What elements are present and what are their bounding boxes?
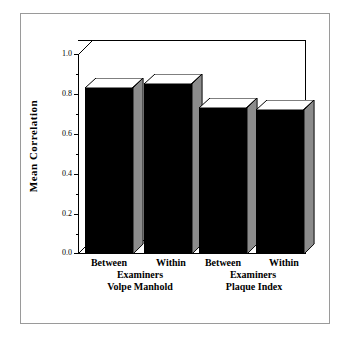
y-tick-minor-0.3 [76,194,79,195]
y-tick-0.0 [74,253,79,254]
bar-volpe-between-examiners [85,78,133,254]
y-tick-minor-0.9 [76,74,79,75]
y-tick-1.0 [74,54,79,55]
bar-front-face [85,88,133,254]
bar-front-face [144,84,192,254]
bar-front-face [256,110,304,254]
x-label-group2-examiners: Examiners [222,269,284,281]
y-tick-label-0.8: 0.8 [62,90,72,98]
y-tick-minor-0.1 [76,234,79,235]
y-axis-title: Mean Correlation [27,76,39,216]
y-tick-minor-0.5 [76,154,79,155]
x-group-label-plaque-index: Plaque Index [213,281,295,293]
x-group-label-volpe-manhold: Volpe Manhold [99,281,181,293]
y-tick-label-0.6: 0.6 [62,130,72,138]
bar-chart-plot-area: 1.0 0.8 0.6 0.4 0.2 0.0 Mean Correlation [0,0,346,337]
bar-side-face [133,78,144,255]
x-label-bar4-line1: Within [253,257,315,269]
y-tick-label-0.2: 0.2 [62,210,72,218]
y-tick-0.8 [74,94,79,95]
x-label-bar1-line1: Between [78,257,140,269]
bar-plaque-between-examiners [199,98,247,254]
bar-plaque-within-examiners [256,100,304,254]
y-tick-label-0.4: 0.4 [62,170,72,178]
figure-root: 1.0 0.8 0.6 0.4 0.2 0.0 Mean Correlation [0,0,346,337]
y-tick-0.2 [74,214,79,215]
bar-volpe-within-examiners [144,74,192,254]
bar-front-face [199,108,247,254]
bar-side-face [304,100,315,255]
y-tick-0.4 [74,174,79,175]
y-tick-minor-0.7 [76,114,79,115]
plot-backwall-top-edge [78,40,306,41]
y-tick-label-0.0: 0.0 [62,249,72,257]
x-label-bar3-line1: Between [192,257,254,269]
y-tick-0.6 [74,134,79,135]
plot-depth-edge-top-left [78,40,93,55]
y-tick-label-1.0: 1.0 [62,50,72,58]
x-label-group1-examiners: Examiners [109,269,171,281]
